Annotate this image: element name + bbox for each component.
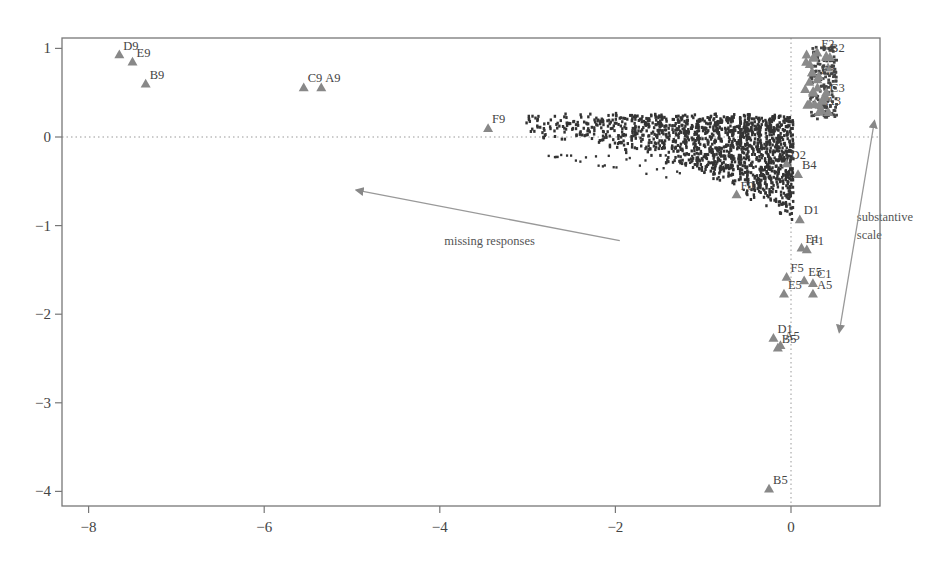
x-tick-label: −2 [607, 519, 623, 535]
category-point-label: C9 [308, 71, 323, 85]
y-tick-label: 0 [44, 129, 52, 145]
category-point-label: A5 [817, 278, 832, 292]
category-point-label: E5 [788, 278, 802, 292]
y-tick-label: 1 [44, 40, 52, 56]
category-point-label: F9 [492, 112, 505, 126]
category-point-label: E9 [137, 46, 151, 60]
category-point-label: F5 [791, 261, 804, 275]
category-point-label: A9 [325, 71, 340, 85]
category-point-label: B5 [782, 332, 797, 346]
annotation-text: missing responses [444, 234, 535, 248]
category-point-label: F0 [741, 179, 754, 193]
category-point-label: D1 [804, 203, 819, 217]
y-tick-label: −3 [35, 395, 51, 411]
category-point-label: F1 [811, 234, 824, 248]
annotations: missing responsessubstantivescale [356, 121, 913, 332]
category-point-label: E3 [821, 63, 835, 77]
category-point-label: A3 [826, 94, 841, 108]
reference-lines [62, 38, 880, 506]
x-axis: −8−6−4−20 [81, 506, 795, 535]
annotation-text: scale [857, 228, 882, 242]
annotation-text: substantive [857, 210, 914, 224]
category-point-label: B5 [773, 473, 788, 487]
y-tick-label: −4 [35, 483, 51, 499]
category-markers [114, 48, 835, 493]
x-tick-label: −8 [81, 519, 97, 535]
y-axis: 10−1−2−3−4 [35, 40, 62, 499]
category-point-label: B4 [802, 158, 817, 172]
category-point-label: B2 [830, 41, 845, 55]
plot-frame [62, 38, 880, 506]
category-point-label: B9 [150, 68, 165, 82]
category-labels: D9E9B9C9A9F9F0D2B4D1E1F1F5E5C1E5A5D1A5B5… [123, 37, 844, 487]
annotation-arrow [356, 190, 619, 241]
category-point-label: C3 [830, 81, 845, 95]
x-tick-label: 0 [787, 519, 795, 535]
x-tick-label: −4 [432, 519, 448, 535]
annotation-arrow [839, 121, 874, 332]
respondent-dots [525, 45, 838, 221]
scatter-chart: D9E9B9C9A9F9F0D2B4D1E1F1F5E5C1E5A5D1A5B5… [0, 0, 950, 568]
y-tick-label: −1 [35, 218, 51, 234]
x-tick-label: −6 [256, 519, 272, 535]
y-tick-label: −2 [35, 306, 51, 322]
